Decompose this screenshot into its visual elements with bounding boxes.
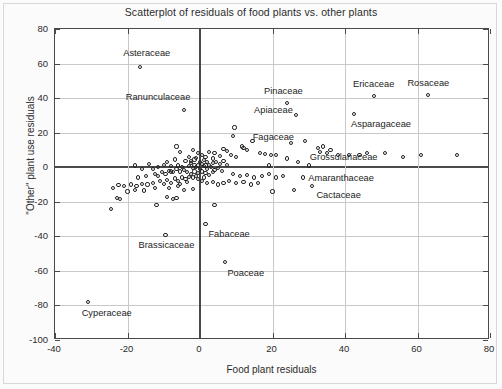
scatter-point bbox=[185, 180, 189, 184]
scatter-point bbox=[307, 163, 311, 167]
y-tick-right bbox=[483, 271, 488, 272]
y-tick bbox=[55, 133, 60, 134]
scatter-point bbox=[301, 175, 305, 179]
scatter-point bbox=[225, 149, 229, 153]
scatter-point bbox=[270, 189, 274, 193]
scatter-point bbox=[292, 188, 296, 192]
scatter-point bbox=[274, 153, 278, 157]
scatter-point bbox=[285, 156, 289, 160]
scatter-point bbox=[234, 155, 238, 159]
scatter-point bbox=[203, 222, 207, 226]
point-label: Cactaceae bbox=[316, 190, 360, 200]
scatter-point bbox=[162, 163, 166, 167]
scatter-point bbox=[383, 151, 387, 155]
gridline-horizontal bbox=[55, 98, 488, 99]
x-tick-top bbox=[55, 29, 56, 34]
scatter-point bbox=[234, 181, 238, 185]
scatter-point bbox=[162, 182, 166, 186]
scatter-point bbox=[267, 172, 271, 176]
y-tick bbox=[55, 271, 60, 272]
x-tick-top bbox=[345, 29, 346, 34]
y-tick bbox=[55, 98, 60, 99]
scatter-point bbox=[202, 175, 206, 179]
point-label: Pinaceae bbox=[264, 86, 303, 96]
gridline-vertical bbox=[418, 29, 419, 338]
y-tick-right bbox=[483, 305, 488, 306]
scatter-point bbox=[180, 175, 184, 179]
point-label: Cyperaceae bbox=[82, 308, 132, 318]
scatter-point bbox=[218, 154, 222, 158]
y-zero-axis-line bbox=[55, 166, 488, 168]
scatter-point bbox=[111, 186, 115, 190]
x-tick bbox=[128, 333, 129, 338]
scatter-point bbox=[86, 300, 90, 304]
x-tick-top bbox=[418, 29, 419, 34]
scatter-point bbox=[133, 163, 137, 167]
scatter-point bbox=[232, 125, 236, 129]
scatter-point bbox=[426, 93, 430, 97]
x-tick-top bbox=[490, 29, 491, 34]
x-tick bbox=[490, 333, 491, 338]
scatter-point bbox=[221, 181, 225, 185]
scatter-point bbox=[221, 147, 225, 151]
scatter-point bbox=[231, 134, 235, 138]
scatter-point bbox=[216, 182, 220, 186]
scatter-point bbox=[241, 180, 245, 184]
scatter-point bbox=[169, 169, 173, 173]
scatter-point bbox=[352, 112, 356, 116]
scatter-point bbox=[192, 157, 196, 161]
scatter-point bbox=[187, 175, 191, 179]
y-tick-right bbox=[483, 236, 488, 237]
scatter-point bbox=[269, 153, 273, 157]
scatter-point bbox=[455, 153, 459, 157]
point-label: Asteraceae bbox=[123, 48, 170, 58]
scatter-point bbox=[140, 167, 144, 171]
page-title: Scatterplot of residuals of food plants … bbox=[0, 6, 502, 18]
scatter-point bbox=[125, 189, 129, 193]
scatter-point bbox=[229, 153, 233, 157]
gridline-horizontal bbox=[55, 202, 488, 203]
scatter-point bbox=[178, 150, 182, 154]
scatter-point bbox=[122, 184, 126, 188]
scatter-point bbox=[191, 175, 195, 179]
point-label: Apiaceae bbox=[254, 105, 293, 115]
x-tick-label: 80 bbox=[484, 343, 495, 354]
scatter-point bbox=[212, 151, 216, 155]
scatter-point bbox=[419, 153, 423, 157]
point-label: Poaceae bbox=[227, 268, 264, 278]
y-tick-right bbox=[483, 64, 488, 65]
scatter-point bbox=[174, 167, 178, 171]
x-tick-top bbox=[273, 29, 274, 34]
scatter-point bbox=[207, 150, 211, 154]
y-tick bbox=[55, 202, 60, 203]
scatter-point bbox=[223, 260, 227, 264]
scatter-point bbox=[245, 173, 249, 177]
x-tick-top bbox=[128, 29, 129, 34]
scatter-point bbox=[165, 195, 169, 199]
scatter-point bbox=[191, 148, 195, 152]
scatter-point bbox=[178, 169, 182, 173]
scatter-point bbox=[133, 188, 137, 192]
x-tick-label: 20 bbox=[266, 343, 277, 354]
x-tick-label: -40 bbox=[47, 343, 61, 354]
gridline-horizontal bbox=[55, 305, 488, 306]
y-tick-right bbox=[483, 29, 488, 30]
point-label: Rosaceae bbox=[407, 78, 449, 88]
x-tick bbox=[345, 333, 346, 338]
point-label: Fagaceae bbox=[253, 132, 294, 142]
scatter-point bbox=[145, 182, 149, 186]
y-tick-right bbox=[483, 340, 488, 341]
plot-area: AsteraceaeRanunculaceaePinaceaeEricaceae… bbox=[54, 28, 489, 339]
gridline-horizontal bbox=[55, 64, 488, 65]
y-tick-label: -60 bbox=[6, 264, 48, 275]
scatter-point bbox=[144, 174, 148, 178]
y-tick bbox=[55, 340, 60, 341]
scatter-point bbox=[163, 172, 167, 176]
scatter-point bbox=[401, 155, 405, 159]
scatter-point bbox=[138, 65, 142, 69]
scatter-point bbox=[109, 207, 113, 211]
scatter-point bbox=[220, 169, 224, 173]
scatter-point bbox=[281, 174, 285, 178]
scatter-point bbox=[183, 159, 187, 163]
scatter-point bbox=[169, 181, 173, 185]
